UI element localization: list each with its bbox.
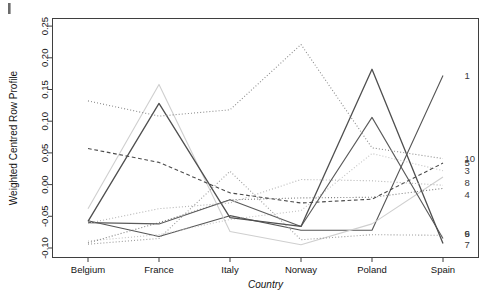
corner-artifact-mark [8,3,11,14]
svg-text:-0.10: -0.10 [39,237,50,259]
profile-line-chart: Weighted Centred Row Profile Country -0.… [0,0,494,300]
series-endpoint-label-8: 8 [465,177,470,188]
svg-text:0.00: 0.00 [39,175,50,194]
svg-text:0.15: 0.15 [39,80,50,99]
svg-text:France: France [144,264,174,275]
x-axis-title: Country [248,279,284,290]
series-endpoint-label-3: 3 [465,165,470,176]
chart-figure: Weighted Centred Row Profile Country -0.… [0,0,494,300]
chart-background [0,0,494,300]
svg-text:0.05: 0.05 [39,144,50,163]
svg-text:Norway: Norway [285,264,317,275]
svg-text:0.10: 0.10 [39,112,50,130]
svg-text:0.25: 0.25 [39,17,50,36]
svg-text:Spain: Spain [431,264,455,275]
series-endpoint-label-9: 9 [465,228,470,239]
svg-text:0.20: 0.20 [39,49,50,68]
series-endpoint-label-7: 7 [465,239,470,250]
series-endpoint-label-1: 1 [465,70,470,81]
y-axis-title: Weighted Centred Row Profile [8,70,19,205]
svg-text:-0.05: -0.05 [39,205,50,227]
svg-text:Country: Country [248,279,284,290]
svg-text:Poland: Poland [357,264,387,275]
svg-text:Italy: Italy [221,264,239,275]
svg-text:Weighted Centred Row Profile: Weighted Centred Row Profile [8,70,19,205]
series-endpoint-label-4: 4 [465,189,470,200]
svg-text:Belgium: Belgium [71,264,105,275]
